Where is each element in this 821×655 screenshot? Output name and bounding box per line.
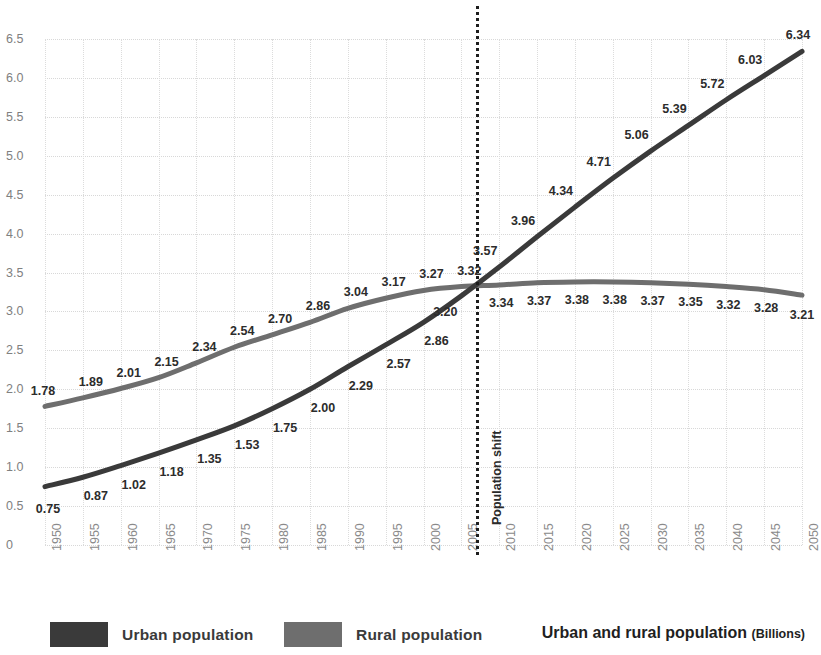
legend-item-rural: Rural population <box>284 622 482 647</box>
population-shift-label: Population shift <box>490 431 504 525</box>
rural-data-label: 3.27 <box>419 267 443 281</box>
chart-title: Urban and rural population (Billions) <box>542 624 805 642</box>
urban-data-label: 1.53 <box>235 438 259 452</box>
urban-data-label: 1.18 <box>159 465 183 479</box>
rural-data-label: 2.54 <box>230 324 254 338</box>
urban-data-label: 5.06 <box>624 128 648 142</box>
rural-data-label: 3.04 <box>344 285 368 299</box>
urban-data-label: 4.71 <box>587 155 611 169</box>
urban-data-label: 5.39 <box>662 102 686 116</box>
rural-data-label: 3.32 <box>457 264 481 278</box>
rural-data-label: 3.38 <box>603 293 627 307</box>
urban-data-label: 1.02 <box>122 478 146 492</box>
rural-data-label: 3.28 <box>754 301 778 315</box>
rural-data-label: 3.32 <box>716 298 740 312</box>
rural-data-label: 3.34 <box>489 296 513 310</box>
urban-data-label: 4.34 <box>549 184 573 198</box>
urban-data-label: 0.75 <box>36 502 60 516</box>
urban-data-label: 6.03 <box>738 53 762 67</box>
legend-swatch-rural <box>284 622 342 647</box>
legend-swatch-urban <box>50 622 108 647</box>
legend-label-rural: Rural population <box>356 626 482 644</box>
rural-data-label: 3.35 <box>678 295 702 309</box>
rural-data-label: 3.37 <box>640 294 664 308</box>
rural-data-label: 2.86 <box>306 299 330 313</box>
urban-data-label: 2.29 <box>349 379 373 393</box>
urban-data-label: 3.57 <box>473 244 497 258</box>
urban-data-label: 2.57 <box>386 357 410 371</box>
rural-data-label: 3.21 <box>790 308 814 322</box>
urban-data-label: 1.75 <box>273 421 297 435</box>
chart-title-unit: (Billions) <box>752 627 805 641</box>
urban-data-label: 5.72 <box>700 77 724 91</box>
population-shift-divider <box>476 6 479 555</box>
urban-data-label: 2.86 <box>424 334 448 348</box>
legend-label-urban: Urban population <box>122 626 254 644</box>
urban-data-label: 3.96 <box>511 214 535 228</box>
rural-data-label: 1.89 <box>79 375 103 389</box>
rural-data-label: 2.01 <box>117 366 141 380</box>
rural-data-label: 2.70 <box>268 312 292 326</box>
rural-data-label: 3.17 <box>381 275 405 289</box>
urban-data-label: 3.20 <box>433 305 457 319</box>
urban-data-label: 2.00 <box>311 401 335 415</box>
rural-data-label: 3.37 <box>527 294 551 308</box>
rural-data-label: 2.34 <box>192 340 216 354</box>
rural-data-label: 1.78 <box>31 384 55 398</box>
chart-title-text: Urban and rural population <box>542 624 747 641</box>
urban-data-label: 1.35 <box>197 452 221 466</box>
rural-data-label: 2.15 <box>154 355 178 369</box>
urban-data-label: 6.34 <box>786 28 810 42</box>
legend-item-urban: Urban population <box>50 622 254 647</box>
rural-data-label: 3.38 <box>565 293 589 307</box>
urban-data-label: 0.87 <box>84 489 108 503</box>
